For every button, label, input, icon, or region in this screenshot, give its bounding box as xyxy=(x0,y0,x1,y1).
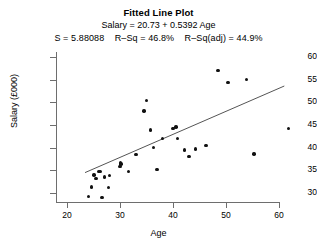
data-point xyxy=(149,128,152,131)
plot-area xyxy=(56,52,280,202)
data-point xyxy=(252,152,255,155)
x-tick-50 xyxy=(226,202,227,208)
x-tick-30 xyxy=(120,202,121,208)
regression-fit-line xyxy=(56,52,280,202)
fitted-line-plot-figure: Fitted Line Plot Salary = 20.73 + 0.5392… xyxy=(0,0,317,251)
data-point xyxy=(216,69,219,72)
data-point xyxy=(183,148,186,151)
data-point xyxy=(119,162,122,165)
x-tick-label-60: 60 xyxy=(259,210,299,220)
x-tick-40 xyxy=(173,202,174,208)
x-tick-60 xyxy=(279,202,280,208)
x-tick-label-30: 30 xyxy=(100,210,140,220)
data-point xyxy=(90,185,93,188)
regression-equation: Salary = 20.73 + 0.5392 Age xyxy=(0,20,317,30)
data-point xyxy=(226,81,229,84)
x-tick-20 xyxy=(67,202,68,208)
data-point xyxy=(155,168,158,171)
x-tick-label-50: 50 xyxy=(206,210,246,220)
data-point xyxy=(287,127,290,130)
data-point xyxy=(98,170,101,173)
chart-title: Fitted Line Plot xyxy=(0,7,317,18)
data-point xyxy=(94,177,97,180)
data-point xyxy=(134,153,137,156)
x-tick-label-40: 40 xyxy=(153,210,193,220)
x-tick-label-20: 20 xyxy=(47,210,87,220)
regression-statistics: S = 5.88088 R–Sq = 46.8% R–Sq(adj) = 44.… xyxy=(0,33,317,43)
x-axis-line xyxy=(56,202,280,203)
y-axis-label: Salary (£000) xyxy=(9,46,19,156)
data-point xyxy=(108,174,111,177)
x-axis-label: Age xyxy=(0,228,317,238)
data-point xyxy=(204,144,207,147)
data-point xyxy=(100,196,103,199)
data-point xyxy=(174,125,177,128)
data-point xyxy=(142,109,145,112)
